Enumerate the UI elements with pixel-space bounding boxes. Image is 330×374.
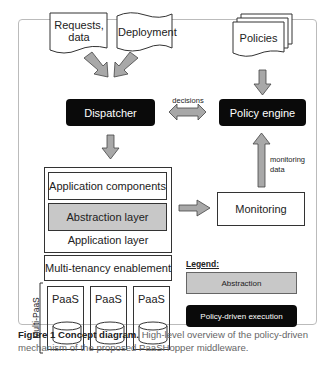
arrow-monitoring-to-engine xyxy=(253,133,270,187)
arrow-dispatcher-to-app xyxy=(102,135,119,159)
monitoring-data-label-line2: data xyxy=(270,165,315,175)
arrow-deployment-to-dispatcher xyxy=(114,52,138,77)
policy-engine-box: Policy engine xyxy=(219,99,306,126)
arrow-app-to-monitoring xyxy=(179,200,210,216)
paas-label-3: PaaS xyxy=(133,293,170,305)
legend-title: Legend: xyxy=(186,258,226,270)
figure-caption: Figure 1 Concept diagram. High-level ove… xyxy=(18,328,318,354)
monitoring-box: Monitoring xyxy=(217,192,305,226)
multitenancy-box: Multi-tenancy enablement xyxy=(44,255,172,281)
monitoring-data-label: monitoring data xyxy=(270,155,315,175)
decisions-label: decisions xyxy=(168,95,208,107)
requests-label-line2: data xyxy=(52,31,106,43)
paas-label-1: PaaS xyxy=(47,293,84,305)
arrow-requests-to-dispatcher xyxy=(84,52,108,77)
legend-policy-driven: Policy-driven execution xyxy=(186,305,297,327)
policies-label: Policies xyxy=(233,32,284,44)
deployment-label: Deployment xyxy=(118,26,172,38)
requests-label-line1: Requests, xyxy=(52,19,106,31)
paas-label-2: PaaS xyxy=(90,293,127,305)
dispatcher-box: Dispatcher xyxy=(66,99,155,126)
caption-label: Figure 1 Concept diagram. xyxy=(18,329,139,340)
application-layer-label: Application layer xyxy=(44,234,172,246)
legend-abstraction: Abstraction xyxy=(186,272,297,294)
abstraction-layer-box: Abstraction layer xyxy=(48,203,167,231)
arrow-policies-to-engine xyxy=(254,70,271,95)
monitoring-data-label-line1: monitoring xyxy=(270,155,315,165)
application-components-box: Application components xyxy=(48,172,167,200)
requests-label: Requests, data xyxy=(52,19,106,43)
